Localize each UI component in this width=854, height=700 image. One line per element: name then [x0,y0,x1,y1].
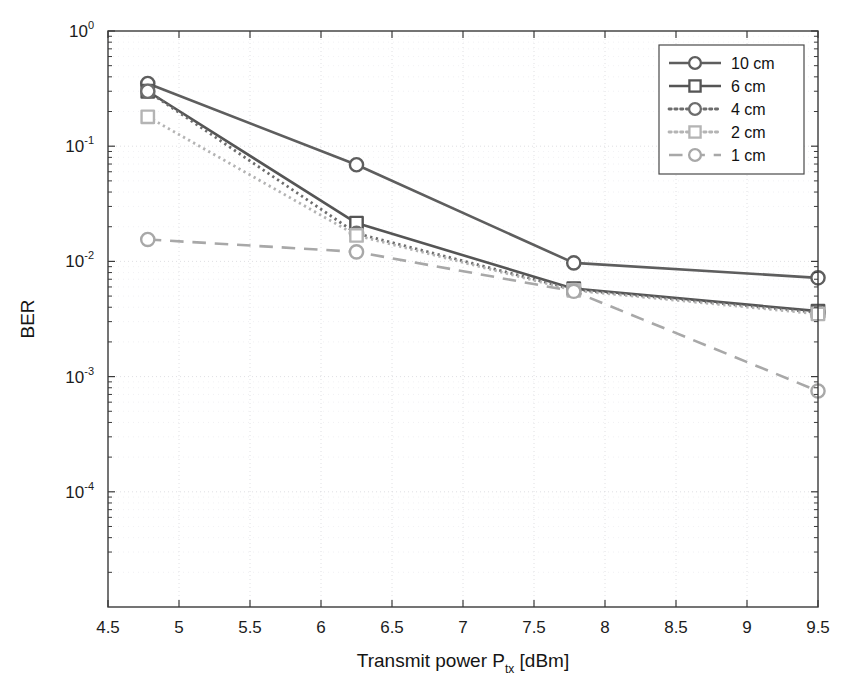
y-tick-exponent: 0 [88,19,94,31]
y-tick-exponent: -3 [84,365,94,377]
x-tick-label: 8.5 [664,618,688,637]
x-tick-label: 7.5 [522,618,546,637]
legend-label-10-cm[interactable]: 10 cm [731,55,775,72]
x-tick-label: 5.5 [238,618,262,637]
data-point-marker [141,233,154,246]
data-point-marker [567,285,580,298]
legend-marker-sample [689,57,701,69]
x-tick-label: 8 [600,618,609,637]
data-point-marker [350,245,363,258]
y-tick-exponent: -4 [84,480,94,492]
x-tick-label: 6.5 [380,618,404,637]
y-tick-exponent: -1 [84,134,94,146]
legend-marker-sample [689,103,701,115]
x-tick-label: 9.5 [806,618,830,637]
ber-chart-figure: 4.555.566.577.588.599.510010-110-210-310… [0,0,854,700]
x-tick-label: 5 [174,618,183,637]
legend-marker-sample [689,80,700,91]
data-point-marker [142,111,154,123]
x-tick-label: 4.5 [96,618,120,637]
y-tick-exponent: -2 [84,249,94,261]
data-point-marker [350,158,363,171]
legend-label-6-cm[interactable]: 6 cm [731,78,766,95]
chart-canvas: 4.555.566.577.588.599.510010-110-210-310… [0,0,854,700]
legend-label-4-cm[interactable]: 4 cm [731,101,766,118]
legend-label-1-cm[interactable]: 1 cm [731,147,766,164]
x-tick-label: 7 [458,618,467,637]
legend-marker-sample [689,126,700,137]
x-tick-label: 9 [742,618,751,637]
legend[interactable]: 10 cm6 cm4 cm2 cm1 cm [659,45,804,174]
legend-marker-sample [689,149,701,161]
data-point-marker [350,229,362,241]
data-point-marker [141,85,154,98]
data-point-marker [567,256,580,269]
y-axis-label: BER [17,299,38,338]
legend-label-2-cm[interactable]: 2 cm [731,124,766,141]
x-tick-label: 6 [316,618,325,637]
